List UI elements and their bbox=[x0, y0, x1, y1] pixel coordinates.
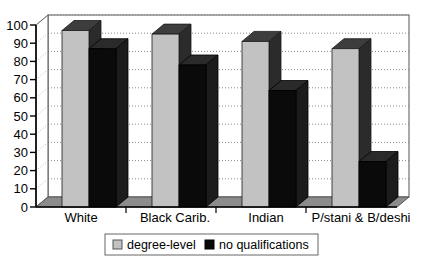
plot-left-wall bbox=[36, 15, 48, 207]
legend-swatch-no-qualifications bbox=[205, 240, 214, 249]
y-tick-label: 90 bbox=[14, 36, 28, 51]
bar-no-qualifications-black-carib[interactable] bbox=[179, 55, 218, 207]
legend-label-no-qualifications[interactable]: no qualifications bbox=[219, 238, 309, 252]
y-tick-label: 60 bbox=[14, 90, 28, 105]
y-tick-label: 70 bbox=[14, 72, 28, 87]
y-tick-label: 80 bbox=[14, 54, 28, 69]
category-label-black-carib: Black Carib. bbox=[140, 210, 210, 225]
y-tick-label: 10 bbox=[14, 181, 28, 196]
x-axis-category-labels: White Black Carib. Indian P/stani & B/de… bbox=[64, 210, 410, 225]
legend-label-degree-level[interactable]: degree-level bbox=[127, 238, 196, 252]
y-tick-label: 40 bbox=[14, 127, 28, 142]
y-tick-label: 0 bbox=[21, 200, 28, 215]
y-tick-label: 50 bbox=[14, 109, 28, 124]
y-tick-label: 20 bbox=[14, 163, 28, 178]
chart-canvas: 100 90 80 70 60 50 40 30 20 10 0 bbox=[0, 0, 421, 266]
bar-no-qualifications-white[interactable] bbox=[89, 39, 128, 207]
y-axis-tick-labels: 100 90 80 70 60 50 40 30 20 10 0 bbox=[6, 18, 28, 215]
category-label-indian: Indian bbox=[248, 210, 283, 225]
bar-no-qualifications-pstani-bdeshi[interactable] bbox=[359, 152, 398, 208]
category-label-pstani-bdeshi: P/stani & B/deshi bbox=[312, 210, 411, 225]
y-axis bbox=[30, 25, 36, 207]
y-tick-label: 100 bbox=[6, 18, 28, 33]
chart-legend: degree-level no qualifications bbox=[105, 234, 318, 255]
legend-swatch-degree-level bbox=[113, 240, 122, 249]
bar-group-white bbox=[62, 21, 128, 208]
bar-chart: 100 90 80 70 60 50 40 30 20 10 0 bbox=[0, 0, 421, 266]
y-tick-label: 30 bbox=[14, 145, 28, 160]
bar-no-qualifications-indian[interactable] bbox=[269, 81, 308, 208]
category-label-white: White bbox=[64, 210, 97, 225]
